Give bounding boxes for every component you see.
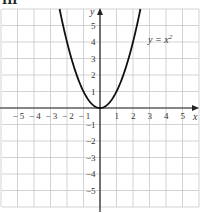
x-axis-label: x — [192, 111, 198, 122]
parabola-chart: − 5− 4− 3− 2− 11234554321−1−2−3−4−5 x y … — [0, 0, 200, 213]
x-tick-label: 4 — [164, 111, 169, 121]
y-tick-label: 5 — [91, 21, 96, 31]
x-tick-label: − 4 — [29, 111, 41, 121]
y-tick-label: 1 — [91, 87, 96, 97]
y-tick-label: 2 — [91, 70, 96, 80]
y-tick-label: −5 — [86, 186, 96, 196]
y-tick-label: −3 — [86, 153, 96, 163]
y-tick-label: 3 — [91, 54, 96, 64]
y-tick-label: −2 — [86, 136, 96, 146]
x-tick-label: 3 — [148, 111, 153, 121]
x-tick-label: 2 — [131, 111, 136, 121]
y-axis — [97, 8, 103, 212]
x-tick-label: − 5 — [13, 111, 25, 121]
x-tick-label: 5 — [181, 111, 186, 121]
y-tick-label: −4 — [86, 169, 96, 179]
x-tick-label: 1 — [115, 111, 120, 121]
x-tick-label: − 3 — [46, 111, 58, 121]
x-tick-label: − 2 — [62, 111, 74, 121]
y-tick-label: 4 — [91, 37, 96, 47]
y-tick-label: −1 — [86, 120, 96, 130]
equation-label: y = x2 — [147, 33, 173, 45]
y-axis-label: y — [89, 6, 95, 17]
